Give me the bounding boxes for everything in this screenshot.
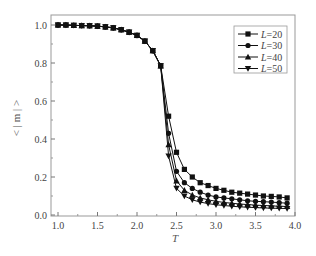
- square-marker-icon: [213, 186, 218, 191]
- y-axis-label: < | m | >: [10, 100, 22, 136]
- x-tick-label: 3.0: [210, 220, 223, 231]
- square-marker-icon: [206, 183, 211, 188]
- square-marker-icon: [174, 150, 179, 155]
- x-axis-label: T: [172, 232, 179, 244]
- y-tick-label: 1.0: [35, 20, 48, 31]
- square-marker-icon: [261, 193, 266, 198]
- legend-label: L=50: [260, 63, 282, 74]
- square-marker-icon: [277, 194, 282, 199]
- y-tick-label: 0.2: [35, 172, 48, 183]
- legend-label: L=20: [260, 29, 282, 40]
- circle-marker-icon: [198, 190, 203, 195]
- square-marker-icon: [221, 188, 226, 193]
- square-marker-icon: [253, 192, 258, 197]
- circle-marker-icon: [190, 186, 195, 191]
- square-marker-icon: [198, 180, 203, 185]
- x-tick-label: 1.5: [91, 220, 104, 231]
- y-tick-label: 0.4: [35, 134, 48, 145]
- x-tick-label: 2.5: [170, 220, 183, 231]
- square-marker-icon: [269, 194, 274, 199]
- square-marker-icon: [237, 191, 242, 196]
- x-tick-label: 4.0: [289, 220, 302, 231]
- square-marker-icon: [190, 174, 195, 179]
- square-marker-icon: [229, 190, 234, 195]
- y-tick-label: 0.6: [35, 96, 48, 107]
- y-tick-label: 0.0: [35, 210, 48, 221]
- legend: L=20L=30L=40L=50: [234, 26, 287, 74]
- triangle-down-marker-icon: [181, 193, 187, 199]
- triangle-up-marker-icon: [189, 192, 195, 198]
- x-tick-label: 2.0: [131, 220, 144, 231]
- square-marker-icon: [182, 167, 187, 172]
- circle-marker-icon: [182, 180, 187, 185]
- x-tick-label: 1.0: [52, 220, 65, 231]
- legend-label: L=30: [260, 40, 282, 51]
- square-marker-icon: [245, 192, 250, 197]
- square-marker-icon: [245, 31, 250, 36]
- x-tick-label: 3.5: [249, 220, 262, 231]
- y-tick-label: 0.8: [35, 58, 48, 69]
- square-marker-icon: [285, 195, 290, 200]
- circle-marker-icon: [245, 43, 250, 48]
- chart: 1.01.52.02.53.03.54.00.00.20.40.60.81.0 …: [0, 0, 316, 256]
- legend-label: L=40: [260, 52, 282, 63]
